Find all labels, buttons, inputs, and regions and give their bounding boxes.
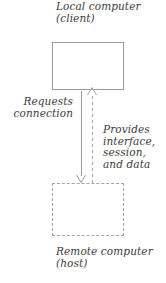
local-computer-label: Local computer (client) xyxy=(56,1,141,24)
local-computer-box xyxy=(52,42,124,90)
provides-services-label: Provides interface, session, and data xyxy=(103,124,155,170)
diagram-canvas: Local computer (client) Requests connect… xyxy=(0,0,166,283)
remote-computer-label: Remote computer (host) xyxy=(56,246,153,269)
remote-computer-box xyxy=(52,183,124,236)
provides-services-arrow xyxy=(88,88,97,184)
requests-connection-label: Requests connection xyxy=(2,96,73,119)
requests-connection-arrow xyxy=(77,91,86,183)
